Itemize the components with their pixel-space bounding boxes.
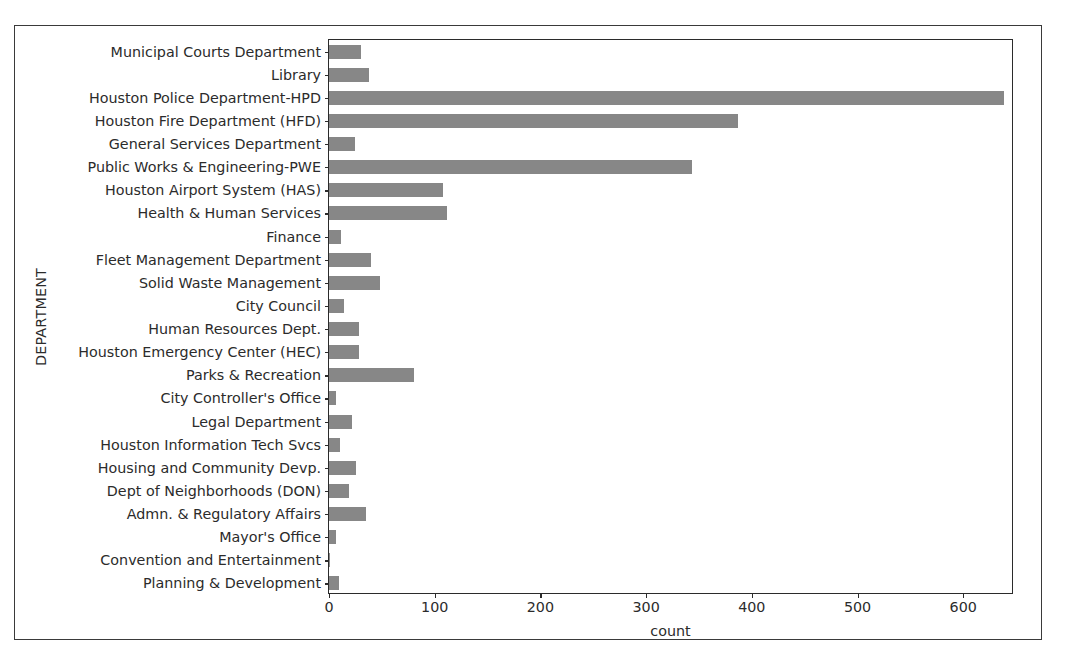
x-tick-label: 100 <box>421 600 448 614</box>
x-tick-mark <box>858 593 859 598</box>
bar <box>329 368 414 382</box>
y-tick-mark <box>325 260 330 261</box>
y-tick-label: Houston Airport System (HAS) <box>105 183 321 197</box>
bar-row <box>329 133 1014 156</box>
bar-row <box>329 526 1014 549</box>
bar-row <box>329 271 1014 294</box>
bar <box>329 391 336 405</box>
y-tick-label: Houston Information Tech Svcs <box>100 438 321 452</box>
bar-row <box>329 86 1014 109</box>
y-tick-mark <box>325 375 330 376</box>
bar <box>329 45 361 59</box>
bar <box>329 322 359 336</box>
bar-row <box>329 433 1014 456</box>
figure-panel: DEPARTMENT Municipal Courts DepartmentLi… <box>14 25 1042 640</box>
bar-row <box>329 40 1014 63</box>
y-tick-mark <box>325 491 330 492</box>
bars-container <box>329 40 1012 593</box>
bar <box>329 183 443 197</box>
y-tick-label: Health & Human Services <box>137 206 321 220</box>
y-tick-label: Library <box>271 68 321 82</box>
y-tick-mark <box>325 468 330 469</box>
bar <box>329 91 1004 105</box>
y-tick-mark <box>325 213 330 214</box>
x-tick-mark <box>752 593 753 598</box>
bar <box>329 68 369 82</box>
x-tick-label: 500 <box>844 600 871 614</box>
y-tick-label: Legal Department <box>192 414 321 428</box>
bar-row <box>329 248 1014 271</box>
y-axis-title: DEPARTMENT <box>31 39 51 594</box>
y-tick-mark <box>325 445 330 446</box>
bar <box>329 253 371 267</box>
y-tick-mark <box>325 121 330 122</box>
bar <box>329 114 738 128</box>
bar-row <box>329 364 1014 387</box>
bar <box>329 299 344 313</box>
bar-row <box>329 456 1014 479</box>
y-axis-title-text: DEPARTMENT <box>33 268 49 366</box>
bar <box>329 206 447 220</box>
bar-row <box>329 202 1014 225</box>
x-tick-label: 400 <box>738 600 765 614</box>
y-tick-mark <box>325 237 330 238</box>
bar-row <box>329 156 1014 179</box>
y-tick-label: City Council <box>236 299 321 313</box>
bar-row <box>329 549 1014 572</box>
bar-row <box>329 109 1014 132</box>
y-tick-mark <box>325 167 330 168</box>
bar <box>329 553 330 567</box>
y-tick-label: Finance <box>266 229 321 243</box>
bar-row <box>329 410 1014 433</box>
y-tick-mark <box>325 352 330 353</box>
y-tick-label: Planning & Development <box>143 576 321 590</box>
y-tick-label: Solid Waste Management <box>139 276 321 290</box>
bar <box>329 345 359 359</box>
bar <box>329 576 339 590</box>
y-tick-mark <box>325 560 330 561</box>
bar-row <box>329 387 1014 410</box>
bar <box>329 276 380 290</box>
x-tick-mark <box>329 593 330 598</box>
bar <box>329 507 366 521</box>
x-tick-label: 0 <box>324 600 333 614</box>
y-tick-mark <box>325 98 330 99</box>
y-tick-mark <box>325 329 330 330</box>
bar <box>329 438 340 452</box>
x-tick-mark <box>646 593 647 598</box>
y-tick-label: Mayor's Office <box>219 530 321 544</box>
y-tick-mark <box>325 306 330 307</box>
bar-row <box>329 503 1014 526</box>
bar-row <box>329 225 1014 248</box>
y-tick-label: Parks & Recreation <box>186 368 321 382</box>
y-tick-label: Municipal Courts Department <box>111 44 321 58</box>
y-tick-label: Houston Police Department-HPD <box>89 91 321 105</box>
y-tick-label: Housing and Community Devp. <box>98 461 321 475</box>
y-tick-label: City Controller's Office <box>160 391 321 405</box>
x-tick-label: 300 <box>632 600 659 614</box>
bar <box>329 530 336 544</box>
y-tick-label: Convention and Entertainment <box>100 553 321 567</box>
y-tick-mark <box>325 190 330 191</box>
bar-row <box>329 341 1014 364</box>
bar <box>329 461 356 475</box>
y-tick-label: General Services Department <box>109 137 321 151</box>
bar <box>329 160 692 174</box>
y-tick-label: Houston Emergency Center (HEC) <box>78 345 321 359</box>
y-tick-mark <box>325 537 330 538</box>
bar <box>329 137 355 151</box>
x-tick-mark <box>963 593 964 598</box>
plot-axes: Municipal Courts DepartmentLibraryHousto… <box>328 39 1013 594</box>
y-tick-mark <box>325 144 330 145</box>
y-tick-mark <box>325 75 330 76</box>
x-tick-mark <box>435 593 436 598</box>
x-tick-label: 200 <box>527 600 554 614</box>
bar-row <box>329 179 1014 202</box>
y-tick-label: Admn. & Regulatory Affairs <box>127 507 321 521</box>
y-tick-mark <box>325 422 330 423</box>
x-tick-label: 600 <box>950 600 977 614</box>
bar-row <box>329 294 1014 317</box>
y-tick-mark <box>325 52 330 53</box>
y-tick-label: Human Resources Dept. <box>148 322 321 336</box>
y-tick-mark <box>325 283 330 284</box>
